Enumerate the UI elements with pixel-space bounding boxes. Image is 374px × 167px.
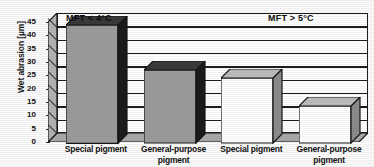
bar-side-face [273,69,282,143]
y-tick-label: 5 [12,125,36,133]
bar-3d-shape [221,69,284,144]
x-axis-label-line2: pigment [116,155,232,166]
bar [299,97,362,144]
y-tick-label: 35 [12,45,36,53]
x-axis-label-line1: General-purpose [271,144,374,155]
y-tick-label: 40 [12,31,36,39]
annotation-left: MFT < 4°C [66,13,112,23]
y-tick-label: 10 [12,111,36,119]
y-tick-label: 30 [12,58,36,66]
bar-top-face [221,69,282,78]
bar-front-face [66,25,118,143]
bar-top-face [299,97,360,106]
bar [221,69,284,144]
bar-side-face [196,61,205,143]
bar-top-face [144,61,205,70]
bar-side-face [118,16,127,143]
plot-area [48,13,368,142]
wet-abrasion-bar-chart: Wet abrasion [µm] 454035302520151050 MFT… [0,0,374,167]
y-axis-tick-column: 454035302520151050 [10,0,36,167]
bar-3d-shape [66,16,129,144]
x-axis-label-line2: pigment [271,155,374,166]
bar-3d-shape [144,61,207,144]
bar-front-face [221,78,273,143]
bar-front-face [299,106,351,143]
y-tick-label: 20 [12,85,36,93]
y-tick-label: 45 [12,18,36,26]
bar-3d-shape [299,97,362,144]
y-tick-mark [46,142,50,143]
bar [66,16,129,144]
annotation-right: MFT > 5°C [268,13,314,23]
bar-front-face [144,70,196,143]
y-tick-label: 25 [12,71,36,79]
y-tick-label: 15 [12,98,36,106]
x-axis-label: General-purposepigment [271,144,374,165]
annotation-left-text: MFT < 4°C [66,13,112,23]
bar [144,61,207,144]
y-tick-label: 0 [12,138,36,146]
